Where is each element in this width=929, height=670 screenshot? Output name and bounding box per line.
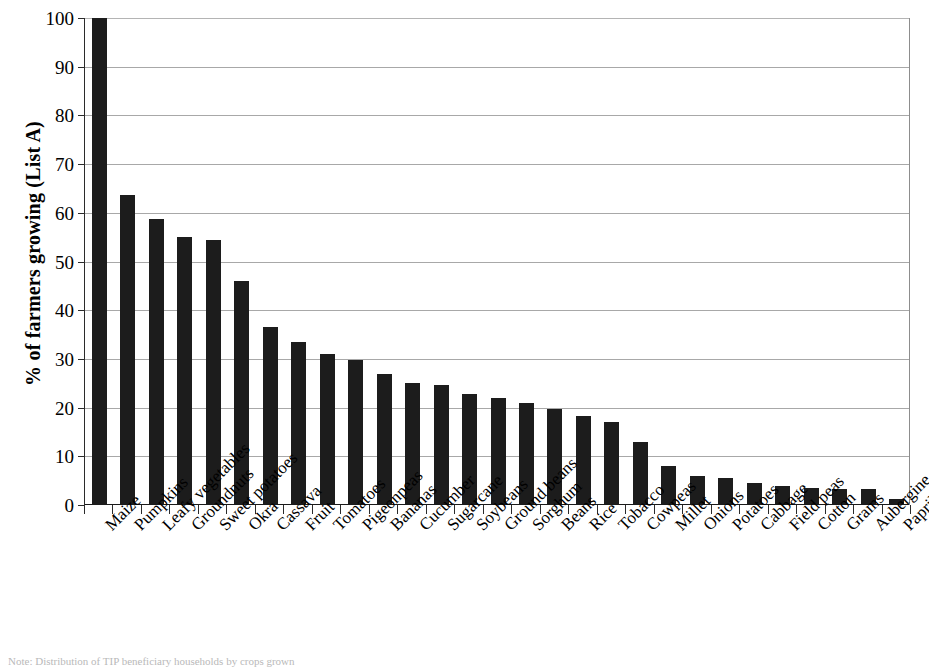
x-axis-tick-label: Tomatoes [330, 521, 342, 533]
x-axis-tick-label: Soybeans [473, 521, 485, 533]
x-axis-tick-label: Cabbage [757, 521, 769, 533]
x-axis-tick-label: Potatoes [729, 521, 741, 533]
x-axis-tick-label: Pigeonpeas [359, 521, 371, 533]
x-axis-tick-label: Fruit [302, 521, 314, 533]
x-axis-tick-label: Field peas [786, 521, 798, 533]
x-axis-tick-label: Paprika [900, 521, 912, 533]
x-axis-tick-label: Pumpkins [131, 521, 143, 533]
x-axis-tick-label: Leafy vegetables [159, 521, 171, 533]
x-axis-tick-label: Cotton [814, 521, 826, 533]
x-axis-tick-label: Sweet potatoes [216, 521, 228, 533]
x-axis-tick-label: Cassava [273, 521, 285, 533]
figure-caption: Note: Distribution of TIP beneficiary ho… [8, 655, 923, 667]
x-axis-tick-labels: MaizePumpkinsLeafy vegetablesGroundnutsS… [0, 0, 929, 670]
x-axis-tick-label: Onions [700, 521, 712, 533]
x-axis-tick-label: Groundnuts [188, 521, 200, 533]
x-axis-tick-label: Millet [672, 521, 684, 533]
x-axis-tick-label: Rice [586, 521, 598, 533]
bar-chart: % of farmers growing (List A) 0102030405… [0, 0, 929, 670]
x-axis-tick-label: Ground beans [501, 521, 513, 533]
x-axis-tick-label: Beans [558, 521, 570, 533]
x-axis-tick-label: Cowpeas [643, 521, 655, 533]
x-axis-tick-label: Okra [245, 521, 257, 533]
x-axis-tick-label: Bananas [387, 521, 399, 533]
x-axis-tick-label: Cucumber [416, 521, 428, 533]
x-axis-tick-label: Grams [843, 521, 855, 533]
x-axis-tick-label: Maize [102, 521, 114, 533]
x-axis-tick-label: Aubergine [871, 521, 883, 533]
x-axis-tick-label: Sugarcane [444, 521, 456, 533]
x-axis-tick-label: Tobacco [615, 521, 627, 533]
x-axis-tick-label: Sorghum [529, 521, 541, 533]
